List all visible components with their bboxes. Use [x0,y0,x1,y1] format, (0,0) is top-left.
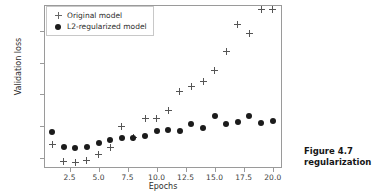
data-point [142,133,148,139]
data-point [246,30,253,37]
data-point [72,159,79,166]
data-point [49,141,56,148]
x-tick [157,168,158,172]
caption-line-2: regularization [304,157,374,168]
plus-marker-icon [51,10,65,21]
data-point [258,6,265,13]
data-point [211,67,218,74]
data-point [107,144,114,151]
x-tick [70,168,71,172]
data-point [234,21,241,28]
x-tick [128,168,129,172]
circle-marker-icon [51,21,65,32]
x-tick-label: 17.5 [235,173,252,182]
data-point [177,128,183,134]
figure-chart: 0.30.40.50.60.7 2.55.07.510.012.515.017.… [0,0,290,195]
data-point [188,83,195,90]
data-point [119,135,125,141]
x-tick-label: 15.0 [206,173,223,182]
data-point [200,78,207,85]
legend-label-l2-regularized-model: L2-regularized model [65,22,147,31]
data-point [223,48,230,55]
legend-item-original-model: Original model [51,10,147,21]
x-tick [244,168,245,172]
data-point [270,118,276,124]
data-point [142,115,149,122]
data-point [72,145,78,151]
data-point [95,151,102,158]
data-point [61,144,67,150]
data-point [176,88,183,95]
legend-item-l2-regularized-model: L2-regularized model [51,21,147,32]
data-point [84,144,90,150]
data-point [246,113,252,119]
x-tick-label: 7.5 [121,173,133,182]
x-tick-label: 12.5 [177,173,194,182]
data-point [165,127,171,133]
x-axis-label: Epochs [44,182,282,191]
data-point [83,157,90,164]
data-point [153,115,160,122]
x-tick [186,168,187,172]
data-point [96,140,102,146]
data-point [212,113,218,119]
data-point [235,119,241,125]
data-point [188,121,194,127]
chart-legend: Original model L2-regularized model [46,6,154,36]
figure-caption: Figure 4.7 regularization [304,146,374,168]
data-point [118,123,125,130]
data-point [200,125,206,131]
x-tick [99,168,100,172]
data-point [165,107,172,114]
data-point [258,120,264,126]
x-tick-label: 10.0 [148,173,165,182]
data-point [60,158,67,165]
data-point [154,128,160,134]
data-point [49,129,55,135]
x-tick [273,168,274,172]
y-axis-label: Validation loss [14,12,23,122]
data-point [269,6,276,13]
x-tick-label: 20.0 [264,173,281,182]
caption-line-1: Figure 4.7 [304,146,374,157]
data-point [107,137,113,143]
x-tick [215,168,216,172]
legend-label-original-model: Original model [65,11,122,20]
x-tick-label: 5.0 [92,173,104,182]
data-point [223,121,229,127]
x-tick-label: 2.5 [63,173,75,182]
